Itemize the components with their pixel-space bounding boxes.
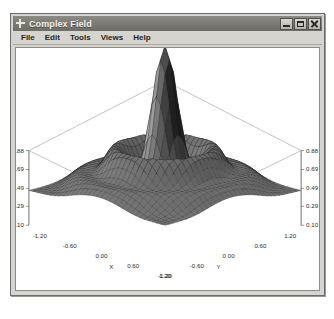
z-axis-left — [26, 151, 29, 226]
x-tick-3: 0.60 — [127, 262, 140, 269]
y-tick-0: 1.20 — [284, 232, 297, 239]
x-tick-2: 0.00 — [95, 252, 108, 259]
x-tick-1: -0.60 — [63, 242, 78, 249]
menu-item-help[interactable]: Help — [128, 31, 155, 44]
z-tick-right-2: 0.49 — [306, 184, 319, 191]
y-tick-labels: 1.20 0.60 0.00 -0.60 -1.20 Y — [158, 232, 297, 279]
menu-bar: File Edit Tools Views Help — [13, 31, 322, 45]
z-tick-right-0: 0.88 — [306, 147, 319, 154]
maximize-button[interactable] — [294, 18, 307, 30]
y-tick-3: -0.60 — [190, 262, 205, 269]
surface-plot: 0.88 0.69 0.49 0.29 0.10 0.88 0.69 0.49 … — [16, 48, 319, 290]
minimize-icon — [281, 19, 292, 29]
app-cross-icon — [16, 19, 25, 28]
z-tick-left-2: 0.49 — [16, 184, 25, 191]
title-bar[interactable]: Complex Field — [13, 16, 322, 31]
z-tick-right-4: 0.10 — [306, 221, 319, 228]
z-tick-labels-left: 0.88 0.69 0.49 0.29 0.10 — [16, 147, 25, 229]
y-tick-1: 0.60 — [254, 242, 267, 249]
z-tick-left-4: 0.10 — [16, 221, 25, 228]
surface-mesh — [29, 48, 301, 225]
maximize-icon — [295, 19, 306, 29]
x-tick-0: -1.20 — [33, 232, 48, 239]
x-tick-labels: -1.20 -0.60 0.00 0.60 1.20 X — [33, 232, 172, 279]
menu-item-tools[interactable]: Tools — [65, 31, 96, 44]
window-title: Complex Field — [29, 19, 280, 29]
y-axis-title: Y — [217, 263, 221, 270]
application-window: Complex Field File Edit Tools Views Help — [10, 13, 325, 296]
z-tick-left-1: 0.69 — [16, 165, 25, 172]
screen-root: Complex Field File Edit Tools Views Help — [0, 0, 334, 319]
window-controls — [280, 18, 321, 30]
plot-canvas[interactable]: 0.88 0.69 0.49 0.29 0.10 0.88 0.69 0.49 … — [15, 47, 320, 291]
x-axis-title: X — [109, 263, 113, 270]
close-icon — [309, 19, 320, 29]
z-tick-left-0: 0.88 — [16, 147, 25, 154]
minimize-button[interactable] — [280, 18, 293, 30]
y-tick-2: 0.00 — [223, 252, 236, 259]
menu-item-views[interactable]: Views — [96, 31, 129, 44]
z-axis-right — [301, 151, 304, 226]
menu-item-file[interactable]: File — [16, 31, 40, 44]
close-button[interactable] — [308, 18, 321, 30]
z-tick-right-1: 0.69 — [306, 165, 319, 172]
z-tick-right-3: 0.29 — [306, 202, 319, 209]
z-tick-labels-right: 0.88 0.69 0.49 0.29 0.10 — [306, 147, 319, 229]
z-tick-left-3: 0.29 — [16, 202, 25, 209]
y-tick-4: -1.20 — [158, 272, 173, 279]
menu-item-edit[interactable]: Edit — [40, 31, 65, 44]
